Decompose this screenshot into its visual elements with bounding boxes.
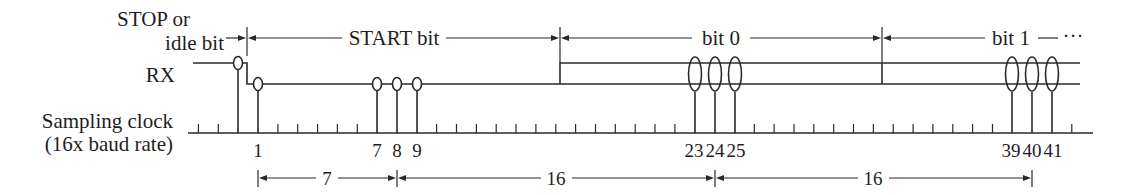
- span-16-label-2: 16: [864, 168, 883, 189]
- bit1-label: bit 1: [992, 26, 1030, 50]
- sample-number: 41: [1044, 140, 1063, 161]
- sample-39-oval: [1006, 57, 1019, 91]
- stop-sample-circle: [234, 57, 243, 70]
- sample-9-circle: [413, 78, 422, 91]
- bottom-span-arrows: 7 16 16: [258, 168, 1032, 189]
- sample-number: 24: [706, 140, 726, 161]
- rx-waveform: [193, 63, 1080, 84]
- start-bit-label: START bit: [349, 26, 440, 50]
- top-span-arrows: START bit bit 0 bit 1 ···: [226, 24, 1083, 63]
- uart-timing-diagram: STOP or idle bit RX Sampling clock (16x …: [0, 0, 1125, 195]
- stop-label-line1: STOP or: [117, 7, 190, 31]
- sample-number: 23: [685, 140, 704, 161]
- sample-41-oval: [1046, 57, 1059, 91]
- sample-number: 25: [727, 140, 746, 161]
- sample-23-oval: [689, 57, 702, 91]
- sample-number: 9: [412, 140, 422, 161]
- clock-label-line2: (16x baud rate): [45, 132, 173, 156]
- clock-label-line1: Sampling clock: [42, 109, 174, 133]
- sample-8-circle: [393, 78, 402, 91]
- sample-number: 40: [1023, 140, 1042, 161]
- bit0-label: bit 0: [702, 26, 740, 50]
- span-7-label: 7: [322, 168, 332, 189]
- sample-number: 39: [1002, 140, 1021, 161]
- span-16-label-1: 16: [547, 168, 566, 189]
- continuation-ellipsis: ···: [1063, 24, 1084, 48]
- sample-40-oval: [1026, 57, 1039, 91]
- sample-number: 1: [253, 140, 263, 161]
- sampling-clock-axis: [188, 124, 1093, 133]
- sample-number: 8: [392, 140, 402, 161]
- sample-1-circle: [254, 78, 263, 91]
- sample-7-circle: [373, 78, 382, 91]
- sample-numbers: 1 7 8 9 23 24 25 39 40 41: [253, 140, 1062, 161]
- sample-number: 7: [372, 140, 382, 161]
- rx-label: RX: [146, 63, 175, 87]
- stop-label-line2: idle bit: [165, 31, 224, 55]
- sample-markers: [234, 57, 1059, 134]
- diagram-canvas: STOP or idle bit RX Sampling clock (16x …: [0, 0, 1125, 195]
- sample-25-oval: [729, 57, 742, 91]
- sample-24-oval: [709, 57, 722, 91]
